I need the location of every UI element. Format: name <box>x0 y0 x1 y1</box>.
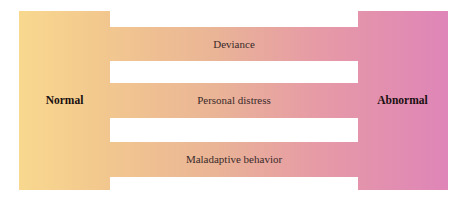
gap-between-deviance-distress <box>110 61 358 83</box>
gap-between-distress-maladaptive <box>110 118 358 142</box>
gap-top <box>110 11 358 27</box>
gap-bottom <box>110 177 358 190</box>
abnormal-label: Abnormal <box>357 94 448 106</box>
band-deviance-label: Deviance <box>110 38 358 50</box>
band-personal-distress-label: Personal distress <box>110 94 358 106</box>
band-maladaptive-behavior-label: Maladaptive behavior <box>110 153 358 165</box>
normal-label: Normal <box>19 94 110 106</box>
normal-abnormal-continuum-diagram: Normal Abnormal Deviance Personal distre… <box>0 0 465 202</box>
